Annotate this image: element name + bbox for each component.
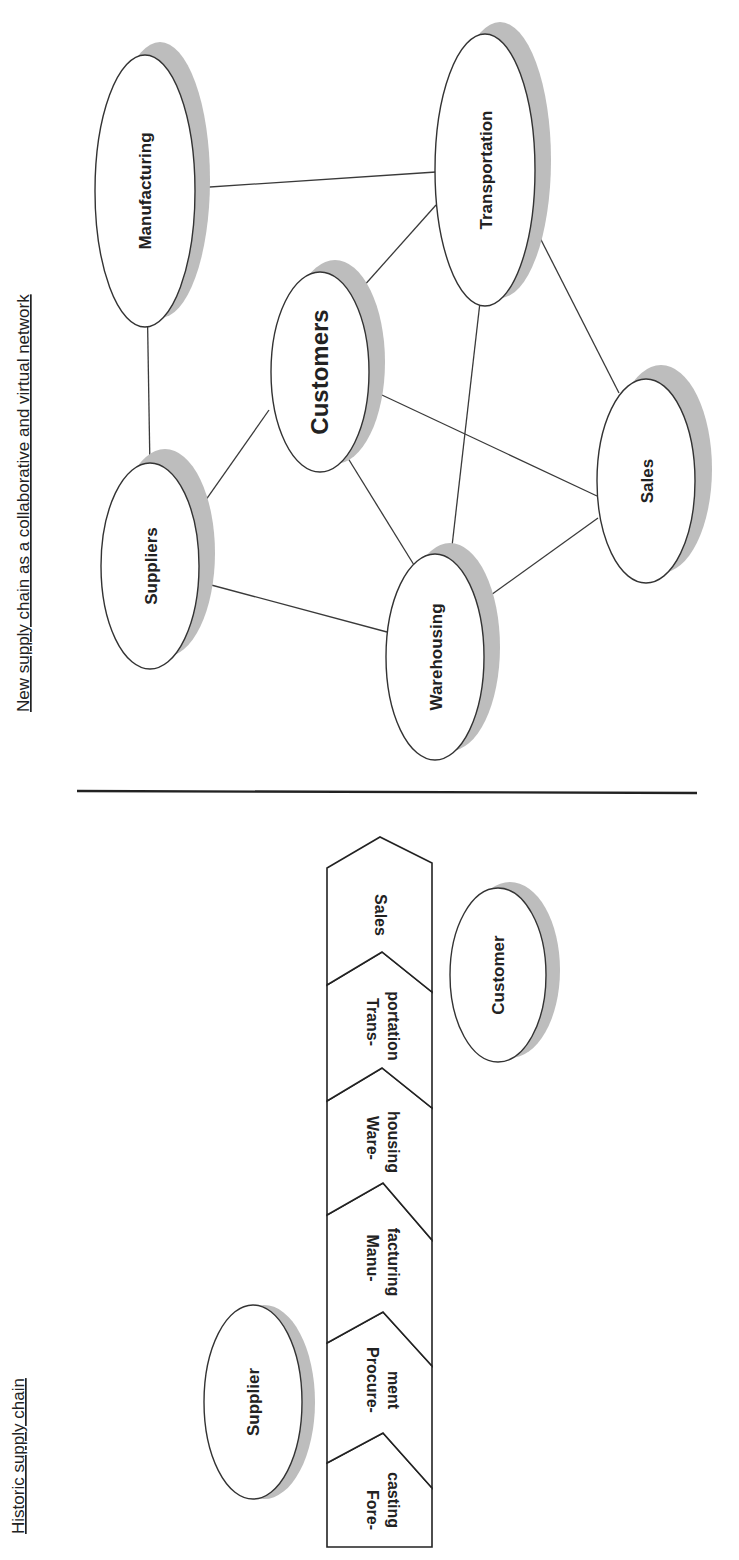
stage-label: ment: [385, 1371, 402, 1410]
node-manufacturing: Manufacturing: [95, 42, 210, 327]
stage-label: Manu-: [364, 1234, 381, 1281]
edge-manufacturing-transportation: [195, 172, 436, 188]
edge-transportation-sales: [534, 226, 619, 393]
edge-warehousing-sales: [484, 518, 598, 600]
node-label: Customers: [306, 309, 333, 434]
customer-node: Customer: [450, 882, 560, 1062]
stage-label: Procure-: [364, 1347, 381, 1413]
stage-label: Sales: [372, 894, 389, 936]
node-label: Warehousing: [427, 603, 446, 710]
edge-customers-sales: [367, 388, 597, 496]
node-sales: Sales: [597, 365, 712, 583]
stage-label: Fore-: [364, 1490, 381, 1530]
edge-transportation-warehousing: [451, 276, 483, 555]
chevron-chain: Fore- casting Procure- ment Manu- factur…: [327, 837, 432, 1547]
node-transportation: Transportation: [435, 22, 551, 306]
node-label: Suppliers: [142, 527, 161, 604]
edge-customers-warehousing: [346, 455, 414, 565]
node-label: Manufacturing: [136, 132, 155, 249]
node-label: Supplier: [244, 1368, 263, 1436]
supply-chain-diagram: New supply chain as a collaborative and …: [0, 0, 739, 1560]
edge-suppliers-warehousing: [200, 582, 387, 632]
stage-label: Ware-: [364, 1116, 381, 1160]
node-customers: Customers: [271, 260, 385, 472]
node-label: Sales: [638, 459, 657, 503]
node-label: Transportation: [477, 110, 496, 229]
network-edges: [147, 172, 619, 632]
node-label: Customer: [489, 935, 508, 1015]
historic-chain-title: Historic supply chain: [9, 1378, 28, 1534]
new-chain-title: New supply chain as a collaborative and …: [14, 294, 33, 712]
stage-label: portation: [385, 991, 402, 1060]
node-warehousing: Warehousing: [386, 543, 500, 760]
supplier-node: Supplier: [204, 1305, 315, 1499]
stage-label: casting: [385, 1472, 402, 1528]
stage-label: facturing: [385, 1228, 402, 1296]
stage-label: housing: [385, 1111, 402, 1173]
section-divider: [77, 791, 697, 793]
stage-label: Trans-: [364, 998, 381, 1046]
node-suppliers: Suppliers: [101, 449, 215, 669]
